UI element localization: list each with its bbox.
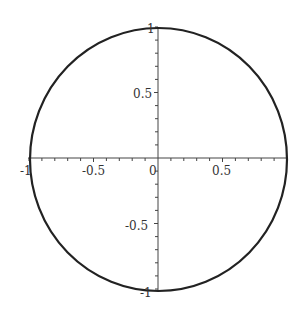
x-tick-label: -1 [20, 164, 32, 178]
x-tick-labels: -1 -0.5 0 0.5 [20, 164, 231, 178]
x-tick-label: 0.5 [212, 164, 231, 178]
y-tick-label: -0.5 [125, 219, 148, 233]
y-tick-label: 1 [147, 22, 155, 36]
x-tick-label: -0.5 [82, 164, 105, 178]
y-axis [154, 27, 158, 292]
circle-plot: -1 -0.5 0 0.5 1 0.5 -0.5 -1 [0, 0, 303, 314]
y-tick-labels: 1 0.5 -0.5 -1 [125, 22, 155, 300]
y-tick-label: -1 [140, 286, 152, 300]
x-tick-label: 0 [149, 164, 157, 178]
y-tick-label: 0.5 [133, 87, 152, 101]
